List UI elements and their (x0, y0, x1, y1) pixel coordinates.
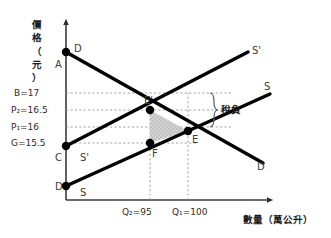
x-axis-title: 數量（萬公升） (243, 214, 313, 225)
data-points (62, 48, 192, 190)
price-tick-G: G=15.5 (11, 138, 46, 148)
price-tick-labels: B=17 P₂=16.5 P₁=16 G=15.5 (11, 88, 48, 148)
price-tick-P1: P₁=16 (11, 122, 39, 132)
price-tick-P2: P₂=16.5 (11, 105, 48, 115)
quantity-tick-labels: Q₂=95 Q₁=100 (122, 207, 208, 217)
y-axis-title-char-5: ） (32, 72, 42, 83)
point-E (184, 127, 192, 135)
y-axis-title-char-4: 元 (32, 59, 42, 70)
point-label-F: F (152, 148, 158, 159)
point-label-E: E (192, 134, 198, 145)
point-label-E-prime: E' (144, 95, 153, 106)
quantity-tick-Q2: Q₂=95 (122, 207, 152, 217)
point-label-D0: D (55, 181, 63, 192)
supply-label-end: S (264, 81, 270, 92)
tax-burden-label: 稅負 (221, 104, 241, 115)
point-C (62, 142, 70, 150)
demand-label-end: D (257, 161, 265, 172)
demand-label-start: D (74, 43, 82, 54)
y-axis-title-char-2: 格 (32, 32, 42, 43)
curve-labels: D D S' S' S S (74, 43, 270, 198)
quantity-tick-Q1: Q₁=100 (172, 207, 208, 217)
point-label-A: A (55, 59, 62, 70)
price-tick-B: B=17 (14, 88, 39, 98)
y-axis-title-char-1: 價 (31, 19, 42, 30)
supply-label-start: S (80, 187, 86, 198)
point-E-prime (146, 106, 154, 114)
point-label-C: C (55, 152, 62, 163)
point-A (62, 48, 70, 56)
supply-demand-tax-chart: 價 格 （ 元 ） 數量（萬公升） B=17 P₂=16.5 P₁=16 G=1… (0, 0, 331, 238)
point-D0 (62, 182, 70, 190)
y-axis-title-char-3: （ (32, 46, 42, 57)
supply-shifted-label-start: S' (80, 152, 89, 163)
point-F (146, 139, 154, 147)
supply-shifted-label-end: S' (252, 45, 261, 56)
curves (66, 52, 270, 186)
